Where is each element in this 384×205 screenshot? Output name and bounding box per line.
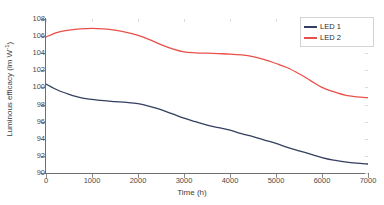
x-tick-label: 3000: [176, 176, 193, 185]
series-line-led-1: [46, 84, 368, 164]
legend-item-led-2[interactable]: LED 2: [304, 32, 369, 43]
y-tick-label: 100: [32, 83, 45, 91]
x-grid-tick: [138, 19, 139, 22]
y-axis-spine: [45, 18, 46, 174]
y-axis-title-text: Luminous efficacy (lm W: [5, 50, 14, 137]
x-tick-label: 7000: [360, 176, 377, 185]
x-tick-label: 0: [44, 176, 48, 185]
y-tick-label: 106: [32, 32, 45, 40]
y-tick-label: 102: [32, 66, 45, 74]
y-axis-title-exponent: -1: [4, 45, 10, 50]
y-tick-label: 104: [32, 49, 45, 57]
legend-swatch-led-1: [304, 26, 317, 28]
x-grid-tick: [46, 19, 47, 22]
y-tick-label: 94: [37, 135, 45, 143]
x-tick-label: 2000: [130, 176, 147, 185]
x-grid-tick: [276, 19, 277, 22]
chart-legend: LED 1 LED 2: [300, 17, 374, 47]
legend-item-led-1[interactable]: LED 1: [304, 21, 369, 32]
y-tick-label: 96: [37, 118, 45, 126]
y-tick-label: 92: [37, 152, 45, 160]
x-axis-spine: [45, 173, 369, 174]
y-grid-tick: [365, 122, 368, 123]
y-tick-label: 98: [37, 101, 45, 109]
x-tick-label: 6000: [314, 176, 331, 185]
chart-figure: 9092949698100102104106108 01000200030004…: [0, 0, 384, 205]
legend-label-led-2: LED 2: [320, 33, 341, 43]
x-axis-title: Time (h): [0, 188, 384, 197]
y-grid-tick: [365, 53, 368, 54]
x-grid-tick: [184, 19, 185, 22]
x-tick-label: 5000: [268, 176, 285, 185]
y-grid-tick: [365, 87, 368, 88]
x-grid-tick: [230, 19, 231, 22]
y-tick-label: 108: [32, 15, 45, 23]
legend-label-led-1: LED 1: [320, 22, 341, 32]
y-grid-tick: [365, 70, 368, 71]
y-grid-tick: [365, 105, 368, 106]
y-grid-tick: [365, 156, 368, 157]
x-tick-label: 4000: [222, 176, 239, 185]
legend-swatch-led-2: [304, 37, 317, 39]
x-tick-label: 1000: [84, 176, 101, 185]
y-grid-tick: [365, 139, 368, 140]
y-axis-title: Luminous efficacy (lm W-1): [4, 19, 15, 159]
x-grid-tick: [92, 19, 93, 22]
y-axis-title-close: ): [5, 42, 14, 45]
